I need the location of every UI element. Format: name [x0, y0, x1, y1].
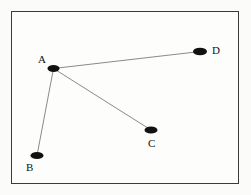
graph-svg — [0, 0, 251, 195]
node-label-c: C — [148, 138, 155, 149]
graph-edge-a-d — [54, 52, 201, 69]
graph-node-a[interactable] — [48, 65, 60, 72]
nodes-layer — [31, 48, 208, 159]
diagram-canvas: ABCD — [0, 0, 251, 195]
node-label-a: A — [38, 54, 46, 65]
graph-edge-a-b — [37, 69, 54, 156]
graph-edge-a-c — [54, 69, 152, 131]
node-label-d: D — [212, 45, 220, 56]
node-label-b: B — [26, 162, 33, 173]
graph-node-d[interactable] — [193, 48, 207, 56]
edges-layer — [37, 52, 200, 156]
graph-node-b[interactable] — [31, 152, 44, 159]
graph-node-c[interactable] — [145, 126, 158, 133]
